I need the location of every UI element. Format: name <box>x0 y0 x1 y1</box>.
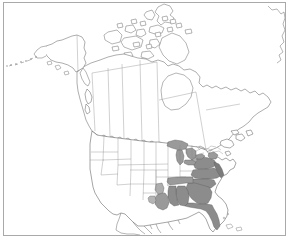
greenland-outline <box>268 6 285 63</box>
distribution-map-figure: North America distribution map <box>0 0 292 250</box>
north-america-map <box>0 0 292 250</box>
